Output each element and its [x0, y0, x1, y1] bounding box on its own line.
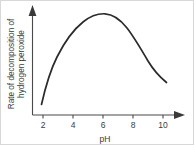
x-axis-title: pH — [100, 134, 111, 144]
y-axis-title-line1: Rate of decomposition of — [7, 18, 16, 109]
chart-plot-area: 2 4 6 8 10 pH Rate of decomposition of h… — [1, 1, 194, 145]
x-axis-arrow-icon — [174, 111, 185, 119]
y-axis-arrow-icon — [29, 5, 37, 16]
y-axis-title-line2: hydrogen peroxide — [17, 30, 26, 98]
x-tick-label-2: 6 — [101, 120, 106, 130]
x-tick-label-1: 4 — [71, 120, 76, 130]
rate-curve — [42, 14, 167, 105]
x-tick-label-4: 10 — [158, 120, 168, 130]
x-tick-label-3: 8 — [131, 120, 136, 130]
x-tick-label-0: 2 — [41, 120, 46, 130]
chart-figure: 2 4 6 8 10 pH Rate of decomposition of h… — [0, 0, 194, 145]
